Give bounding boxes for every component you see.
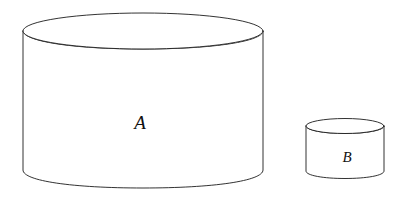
- cylinder-b-label: B: [342, 150, 351, 165]
- cylinder-diagram-svg: [0, 0, 404, 206]
- cylinder-a-label: A: [134, 113, 146, 132]
- cylinder-a-top-ellipse: [23, 13, 263, 49]
- figure-canvas: A B: [0, 0, 404, 206]
- cylinder-b-top-ellipse: [306, 119, 384, 134]
- cylinder-a-body: [23, 31, 263, 188]
- cylinder-a-shape: [23, 13, 263, 188]
